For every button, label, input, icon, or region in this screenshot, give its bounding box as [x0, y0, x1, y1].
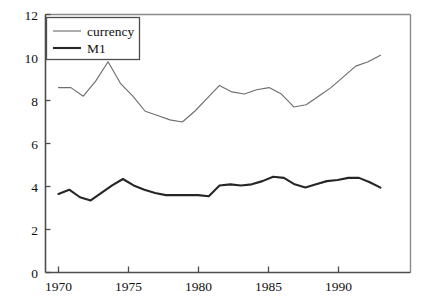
x-tick-marks — [59, 267, 339, 273]
x-tick-label-1980: 1980 — [185, 279, 212, 294]
y-tick-label-6: 6 — [31, 137, 38, 152]
y-tick-label-12: 12 — [25, 8, 39, 23]
y-tick-label-8: 8 — [31, 94, 38, 109]
y-tick-labels: 12 10 8 6 4 2 0 — [25, 8, 39, 281]
chart-figure: 12 10 8 6 4 2 0 1970 1975 1980 1985 1990 — [0, 0, 431, 305]
x-tick-labels: 1970 1975 1980 1985 1990 — [45, 279, 352, 294]
legend-label-currency: currency — [87, 24, 134, 39]
y-tick-label-10: 10 — [25, 51, 39, 66]
y-tick-label-2: 2 — [31, 223, 38, 238]
y-tick-label-0: 0 — [31, 266, 38, 281]
series-group — [59, 55, 381, 200]
y-tick-label-4: 4 — [31, 180, 38, 195]
series-line-m1 — [59, 177, 381, 201]
x-tick-label-1975: 1975 — [115, 279, 142, 294]
x-tick-label-1990: 1990 — [325, 279, 352, 294]
chart-legend: currency M1 — [47, 18, 140, 60]
legend-label-m1: M1 — [87, 41, 106, 56]
line-chart: 12 10 8 6 4 2 0 1970 1975 1980 1985 1990 — [0, 0, 431, 305]
x-tick-label-1970: 1970 — [45, 279, 72, 294]
series-line-currency — [59, 55, 381, 122]
x-tick-label-1985: 1985 — [255, 279, 282, 294]
